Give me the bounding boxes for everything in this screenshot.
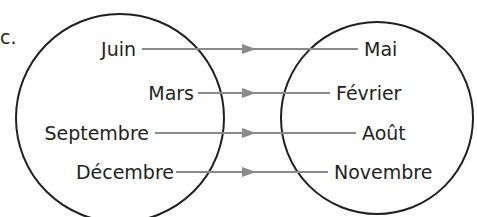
arrow-head-icon (242, 167, 256, 177)
right-item-novembre: Novembre (334, 161, 432, 183)
arrow-head-icon (242, 128, 256, 138)
left-item-decembre: Décembre (76, 161, 174, 183)
arrow-head-icon (242, 88, 256, 98)
left-item-mars: Mars (148, 82, 194, 104)
right-item-aout: Août (362, 122, 406, 144)
arrow-head-icon (242, 44, 256, 54)
mapping-diagram (0, 0, 477, 217)
right-item-fevrier: Février (336, 82, 401, 104)
right-item-mai: Mai (364, 38, 397, 60)
left-item-juin: Juin (101, 38, 136, 60)
left-item-septembre: Septembre (44, 122, 149, 144)
exercise-label: c. (0, 26, 17, 48)
